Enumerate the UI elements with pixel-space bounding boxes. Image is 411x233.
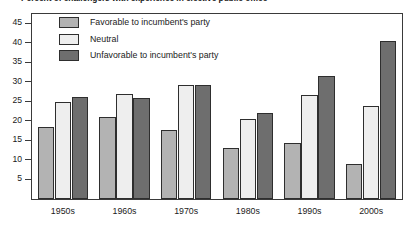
bar [55, 102, 72, 199]
legend-swatch [59, 34, 79, 45]
bar-group [284, 14, 335, 199]
y-axis-tick-label: 35 [12, 56, 22, 67]
x-axis-label: 1950s [32, 206, 94, 217]
bar [284, 143, 301, 199]
bar [116, 94, 133, 199]
x-axis-label: 1960s [94, 206, 156, 217]
bar [161, 130, 178, 199]
bar [318, 76, 335, 199]
bar-group [346, 14, 397, 199]
y-axis-tick-label: 45 [12, 17, 22, 28]
bar [301, 95, 318, 199]
x-axis-label: 2000s [340, 206, 402, 217]
bar [257, 113, 274, 199]
y-axis-tick-label: 5 [17, 173, 22, 184]
y-axis-tick-mark [25, 62, 31, 63]
y-axis: 51015202530354045 [0, 13, 31, 200]
chart-legend: Favorable to incumbent's partyNeutralUnf… [59, 16, 289, 66]
x-axis: 1950s1960s1970s1980s1990s2000s [32, 201, 402, 221]
chart-title: Percent of challengers with experience i… [21, 0, 401, 3]
y-axis-tick-mark [25, 101, 31, 102]
bar [223, 148, 240, 199]
x-axis-label: 1970s [155, 206, 217, 217]
bar [178, 85, 195, 199]
y-axis-tick-label: 10 [12, 154, 22, 165]
legend-item: Neutral [59, 33, 289, 48]
y-axis-tick-label: 15 [12, 134, 22, 145]
chart-screenshot: Percent of challengers with experience i… [0, 0, 411, 233]
y-axis-tick-mark [25, 42, 31, 43]
bar [133, 98, 150, 199]
bar [38, 127, 55, 199]
legend-swatch [59, 50, 79, 61]
legend-item: Favorable to incumbent's party [59, 16, 289, 31]
legend-label: Neutral [90, 33, 118, 46]
y-axis-tick-label: 25 [12, 95, 22, 106]
bar [99, 117, 116, 199]
y-axis-tick-mark [25, 81, 31, 82]
y-axis-tick-label: 40 [12, 37, 22, 48]
x-axis-label: 1980s [217, 206, 279, 217]
y-axis-tick-mark [25, 159, 31, 160]
x-axis-label: 1990s [279, 206, 341, 217]
y-axis-tick-mark [25, 179, 31, 180]
legend-item: Unfavorable to incumbent's party [59, 49, 289, 64]
y-axis-tick-mark [25, 23, 31, 24]
bar [72, 97, 89, 199]
y-axis-tick-mark [25, 140, 31, 141]
y-axis-tick-label: 20 [12, 115, 22, 126]
y-axis-tick-mark [25, 120, 31, 121]
legend-label: Unfavorable to incumbent's party [90, 49, 218, 62]
y-axis-tick-label: 30 [12, 76, 22, 87]
bar [380, 41, 397, 199]
bar [240, 119, 257, 199]
bar [195, 85, 212, 199]
bar [346, 164, 363, 199]
bar [363, 106, 380, 199]
legend-label: Favorable to incumbent's party [90, 16, 210, 29]
legend-swatch [59, 17, 79, 28]
